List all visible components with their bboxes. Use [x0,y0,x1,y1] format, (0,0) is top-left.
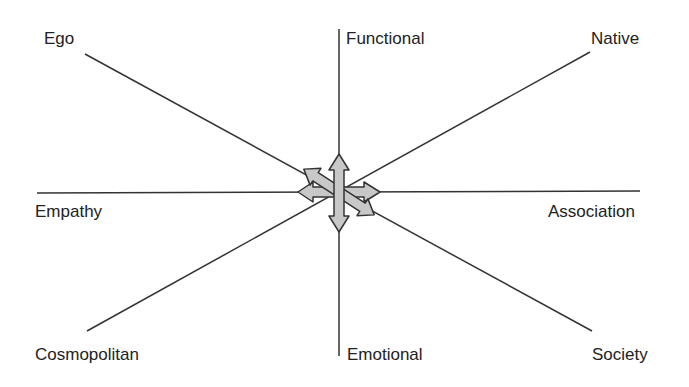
label-cosmopolitan: Cosmopolitan [35,346,139,363]
label-association: Association [548,203,635,220]
axis-diagram [0,0,689,387]
label-empathy: Empathy [35,203,102,220]
label-ego: Ego [44,30,74,47]
label-emotional: Emotional [347,346,423,363]
label-functional: Functional [346,30,424,47]
center-arrows-icon [298,154,380,232]
label-native: Native [591,30,639,47]
label-society: Society [592,346,648,363]
